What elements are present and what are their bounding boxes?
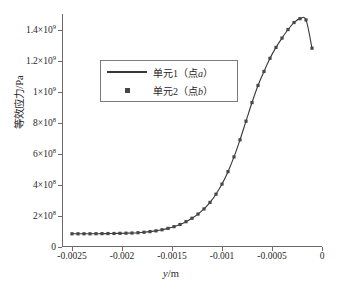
data-point-marker: [148, 230, 151, 233]
series-1-line: [72, 17, 312, 234]
data-point-marker: [142, 231, 145, 234]
data-point-marker: [160, 228, 163, 231]
data-point-marker: [208, 201, 211, 204]
y-tick-label: 0: [51, 242, 56, 252]
data-point-marker: [256, 84, 259, 87]
legend: 单元1（点a） 单元2（点b）: [100, 60, 238, 102]
x-axis-title: y/m: [0, 268, 342, 279]
y-tick-label: 8×108: [33, 118, 56, 128]
y-tick: [58, 247, 62, 248]
data-point-marker: [274, 46, 277, 49]
x-tick-label: 0: [320, 251, 325, 261]
data-point-marker: [286, 28, 289, 31]
data-point-marker: [124, 232, 127, 235]
x-tick-label: -0.0025: [57, 251, 86, 261]
data-point-marker: [118, 232, 121, 235]
data-point-marker: [190, 217, 193, 220]
data-point-marker: [268, 57, 271, 60]
data-point-marker: [172, 225, 175, 228]
y-tick-label: 6×108: [33, 149, 56, 159]
y-tick-label: 1.2×109: [26, 56, 56, 66]
data-point-marker: [184, 220, 187, 223]
data-point-marker: [292, 21, 295, 24]
legend-item-series-2: 单元2（点b）: [101, 81, 237, 99]
legend-label-series-2: 单元2（点b）: [153, 83, 213, 98]
data-point-marker: [238, 138, 241, 141]
data-point-marker: [196, 212, 199, 215]
data-point-marker: [70, 232, 73, 235]
data-point-marker: [106, 232, 109, 235]
data-point-marker: [226, 170, 229, 173]
data-point-marker: [202, 207, 205, 210]
y-tick-label: 1.4×109: [26, 25, 56, 35]
data-point-marker: [94, 232, 97, 235]
data-point-marker: [154, 229, 157, 232]
data-point-marker: [304, 18, 307, 21]
figure: 等效应力/Pa 02×1084×1086×1088×1081×1091.2×10…: [0, 0, 342, 294]
data-point-marker: [100, 232, 103, 235]
legend-label-series-1: 单元1（点a）: [153, 65, 213, 80]
data-point-marker: [130, 231, 133, 234]
legend-line-swatch: [101, 71, 153, 72]
y-axis-title: 等效应力/Pa: [11, 52, 25, 152]
y-tick-label: 4×108: [33, 180, 56, 190]
data-point-marker: [166, 227, 169, 230]
data-point-marker: [220, 182, 223, 185]
x-tick-label: -0.0015: [157, 251, 186, 261]
data-point-marker: [82, 232, 85, 235]
data-point-marker: [214, 193, 217, 196]
legend-item-series-1: 单元1（点a）: [101, 63, 237, 81]
data-point-marker: [310, 47, 313, 50]
x-tick-label: -0.0005: [257, 251, 286, 261]
data-point-marker: [178, 223, 181, 226]
data-point-marker: [76, 232, 79, 235]
data-point-marker: [250, 101, 253, 104]
data-point-marker: [262, 70, 265, 73]
data-point-marker: [280, 36, 283, 39]
series-2-markers: [70, 17, 313, 235]
data-point-marker: [244, 120, 247, 123]
x-tick-label: -0.001: [210, 251, 235, 261]
plot-area: 02×1084×1086×1088×1081×1091.2×1091.4×109…: [62, 14, 322, 247]
data-point-marker: [136, 231, 139, 234]
data-point-marker: [232, 155, 235, 158]
x-tick-label: -0.002: [110, 251, 135, 261]
chart-canvas: [62, 14, 322, 247]
legend-square-swatch: [101, 88, 153, 93]
y-tick-label: 1×109: [33, 87, 56, 97]
data-point-marker: [112, 232, 115, 235]
data-point-marker: [298, 17, 301, 20]
y-tick-label: 2×108: [33, 211, 56, 221]
data-point-marker: [88, 232, 91, 235]
